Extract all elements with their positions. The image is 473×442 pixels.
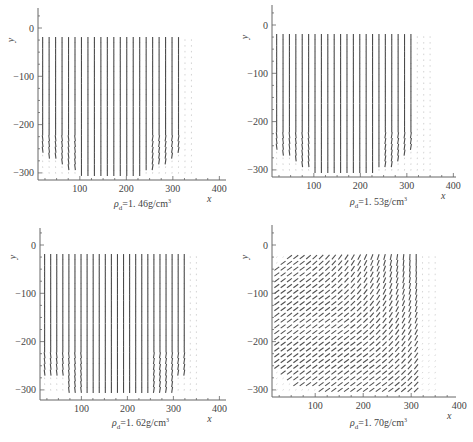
y-tick-label: −200 [247, 116, 268, 127]
x-tick-label: 200 [120, 403, 135, 414]
x-tick-label: 300 [399, 180, 414, 191]
y-axis-label: y [7, 254, 18, 260]
x-tick-label: 300 [166, 403, 181, 414]
x-tick-label: 400 [212, 403, 227, 414]
x-tick-label: 200 [353, 180, 368, 191]
x-tick-label: 100 [72, 183, 87, 194]
y-tick-label: −300 [13, 167, 34, 178]
density-value: =1. 62g/cm [120, 417, 166, 428]
vector-field-3: 1002003004000−100−200−300xy [0, 220, 236, 442]
y-axis-label: y [239, 34, 250, 40]
y-tick-label: −200 [15, 336, 36, 347]
x-axis-label: x [206, 193, 212, 204]
y-tick-label: −200 [13, 119, 34, 130]
y-axis-label: y [5, 37, 16, 43]
caption-2: ρd=1. 53g/cm3 [350, 196, 407, 210]
x-axis-label: x [206, 413, 212, 424]
x-axis-label: x [440, 190, 446, 201]
caption-3: ρd=1. 62g/cm3 [112, 417, 169, 431]
y-tick-label: −200 [247, 336, 268, 347]
x-tick-label: 400 [452, 400, 467, 411]
y-axis-label: y [239, 254, 250, 260]
quiver-plot-4: 1002003004000−100−200−300xy ρd=1. 70g/cm… [236, 220, 473, 442]
superscript: 3 [168, 198, 171, 204]
density-value: =1. 70g/cm [358, 417, 404, 428]
x-tick-label: 100 [74, 403, 89, 414]
caption-1: ρd=1. 46g/cm3 [114, 198, 171, 212]
x-tick-label: 400 [212, 183, 227, 194]
x-tick-label: 300 [165, 183, 180, 194]
y-tick-label: 0 [263, 240, 268, 251]
superscript: 3 [166, 417, 169, 423]
vector-field-4: 1002003004000−100−200−300xy [236, 220, 473, 442]
x-tick-label: 100 [308, 400, 323, 411]
quiver-plot-1: 1002003004000−100−200−300xy ρd=1. 46g/cm… [0, 0, 236, 220]
axes: 1002003004000−100−200−300xy [239, 5, 461, 201]
vector-arrows [276, 34, 430, 173]
axes: 1002003004000−100−200−300xy [5, 8, 227, 204]
x-tick-label: 300 [404, 400, 419, 411]
vector-arrows [44, 254, 196, 393]
y-tick-label: −100 [15, 288, 36, 299]
superscript: 3 [404, 417, 407, 423]
x-tick-label: 200 [119, 183, 134, 194]
y-tick-label: 0 [31, 240, 36, 251]
density-value: =1. 46g/cm [122, 198, 168, 209]
y-tick-label: −300 [15, 384, 36, 395]
density-value: =1. 53g/cm [358, 196, 404, 207]
y-tick-label: −300 [247, 384, 268, 395]
axes: 1002003004000−100−200−300xy [239, 225, 467, 421]
quiver-plot-2: 1002003004000−100−200−300xy ρd=1. 53g/cm… [236, 0, 473, 220]
vector-arrows [274, 254, 435, 392]
x-axis-label: x [446, 410, 452, 421]
y-tick-label: −100 [247, 288, 268, 299]
x-tick-label: 100 [306, 180, 321, 191]
vector-field-2: 1002003004000−100−200−300xy [236, 0, 473, 220]
y-tick-label: −100 [13, 71, 34, 82]
y-tick-label: −300 [247, 164, 268, 175]
quiver-plot-3: 1002003004000−100−200−300xy ρd=1. 62g/cm… [0, 220, 236, 442]
x-tick-label: 400 [446, 180, 461, 191]
vector-arrows [42, 37, 191, 176]
vector-field-1: 1002003004000−100−200−300xy [0, 0, 236, 220]
y-tick-label: −100 [247, 68, 268, 79]
x-tick-label: 200 [356, 400, 371, 411]
y-tick-label: 0 [263, 20, 268, 31]
superscript: 3 [404, 196, 407, 202]
caption-4: ρd=1. 70g/cm3 [350, 417, 407, 431]
y-tick-label: 0 [29, 23, 34, 34]
